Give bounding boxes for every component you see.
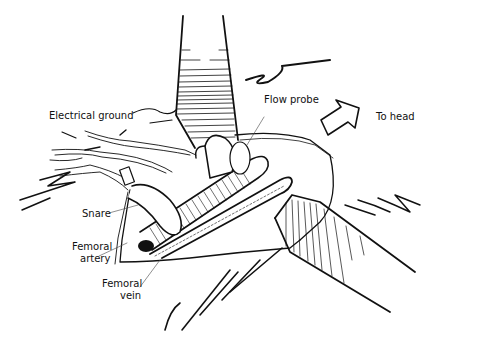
snare [128, 185, 181, 235]
to-head-arrow-icon [321, 100, 359, 135]
label-femoral-artery-line1: Femoral [72, 241, 112, 252]
lower-retractor [275, 195, 415, 312]
label-femoral-artery-line2: artery [80, 253, 110, 264]
upper-retractor [176, 16, 238, 148]
flow-probe [196, 135, 250, 178]
label-femoral-vein-line1: Femoral [102, 278, 142, 289]
surgical-diagram [0, 0, 483, 351]
label-femoral-vein-line2: vein [120, 290, 141, 301]
label-electrical-ground: Electrical ground [49, 110, 134, 121]
label-to-head: To head [376, 111, 415, 122]
label-flow-probe: Flow probe [264, 94, 319, 105]
label-snare: Snare [82, 208, 111, 219]
